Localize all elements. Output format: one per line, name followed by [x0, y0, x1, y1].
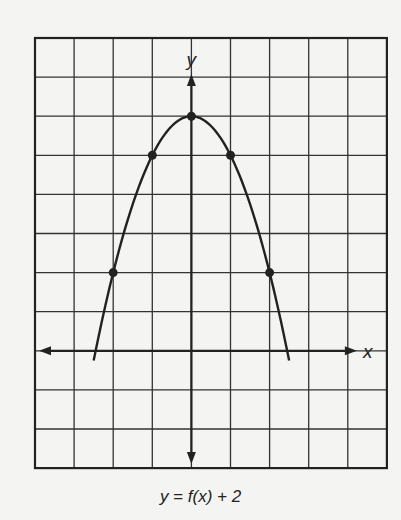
y-axis-down-arrow-icon — [187, 452, 196, 464]
x-axis-left-arrow-icon — [39, 346, 51, 355]
parabola-graph: x y — [0, 0, 401, 520]
y-axis-up-arrow-icon — [187, 74, 196, 86]
data-point — [148, 151, 157, 160]
x-axis-right-arrow-icon — [345, 346, 357, 355]
data-point — [109, 268, 118, 277]
data-point — [226, 151, 235, 160]
y-axis-label: y — [184, 49, 197, 70]
data-point — [265, 268, 274, 277]
grid — [35, 38, 387, 468]
data-point — [187, 112, 196, 121]
x-axis-label: x — [362, 341, 374, 362]
chart-caption: y = f(x) + 2 — [0, 487, 401, 507]
